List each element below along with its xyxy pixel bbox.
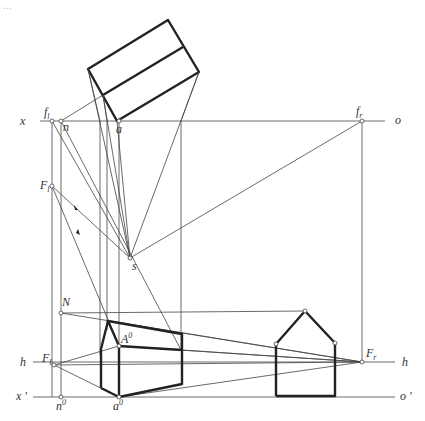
label-s: s xyxy=(132,259,137,273)
label-o-prime: o ' xyxy=(400,389,412,403)
perspective-house xyxy=(101,321,182,397)
perspective-diagram: … xyxy=(0,0,425,421)
diagram-canvas: … xyxy=(0,0,425,421)
label-a0: a0 xyxy=(113,398,123,413)
label-a: a xyxy=(116,122,122,136)
points xyxy=(50,119,364,399)
label-F-r: Fr xyxy=(365,346,377,362)
label-n: n xyxy=(63,120,69,134)
label-o: o xyxy=(395,113,401,127)
label-F-l-upper: Fl xyxy=(39,178,50,194)
caption-text: … xyxy=(2,0,12,11)
label-A0: A0 xyxy=(120,331,132,346)
label-f-r: fr xyxy=(356,104,363,120)
label-n0: n0 xyxy=(56,398,66,413)
elevation-house xyxy=(276,311,335,396)
sight-lines xyxy=(52,69,362,258)
label-h-right: h xyxy=(402,355,408,369)
label-f-l: fl xyxy=(44,105,50,121)
label-F-l: Fl xyxy=(41,351,52,367)
projection-verticals xyxy=(52,121,362,397)
label-h: h xyxy=(20,355,26,369)
label-x: x xyxy=(19,114,26,128)
label-x-prime: x ' xyxy=(15,389,27,403)
label-N: N xyxy=(61,295,71,309)
